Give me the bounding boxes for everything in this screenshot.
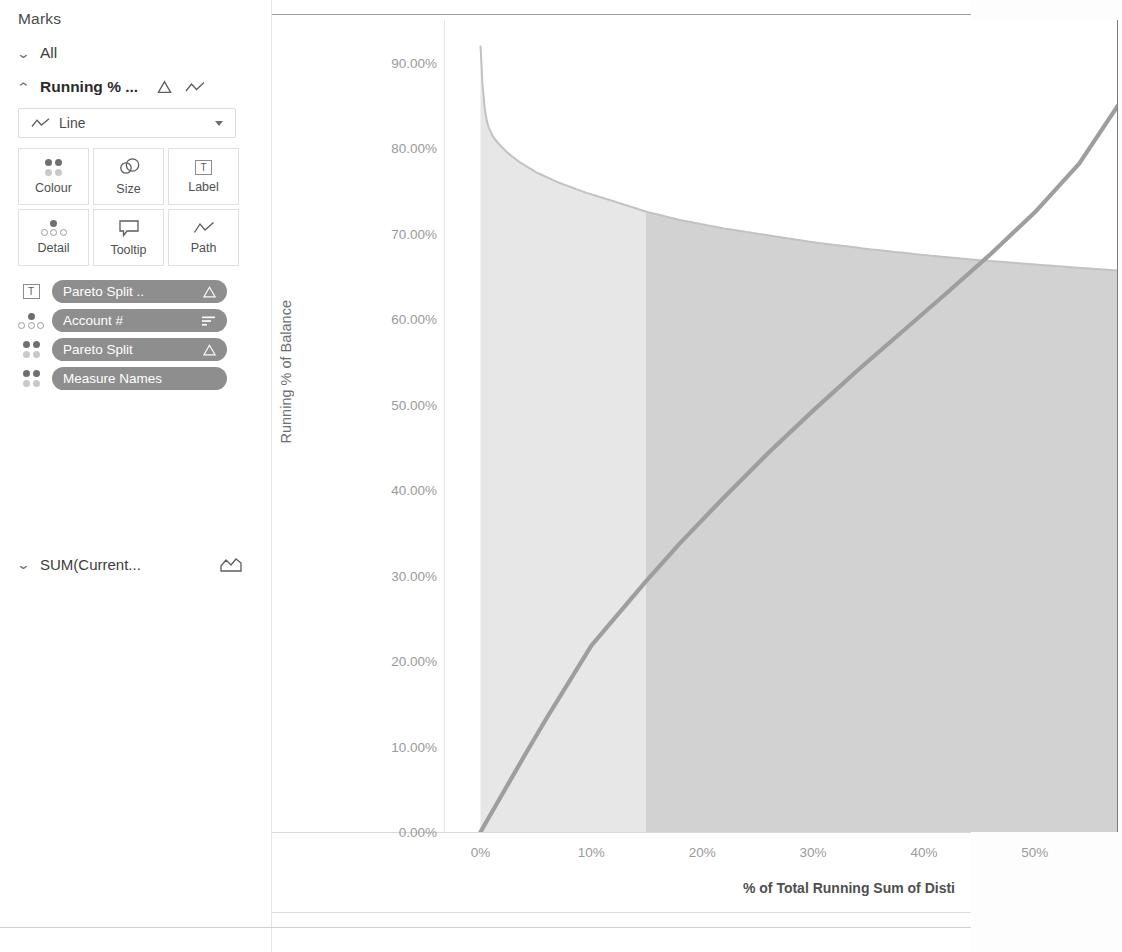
pill-account-number[interactable]: Account # — [52, 309, 227, 332]
delta-icon — [203, 344, 216, 356]
pill-measure-names[interactable]: Measure Names — [52, 367, 227, 390]
x-tick-label: 30% — [800, 845, 827, 860]
y-tick-label: 30.00% — [337, 568, 437, 583]
shelf-button-label-label: Label — [188, 180, 219, 194]
shelf-button-colour[interactable]: Colour — [18, 148, 89, 205]
detail-dots-icon — [18, 313, 44, 329]
pill-row-pareto-split-colour[interactable]: Pareto Split — [18, 338, 268, 361]
page-bottom-divider — [0, 927, 971, 928]
marks-card-sum-label: SUM(Current... — [40, 556, 141, 573]
x-tick-label: 20% — [689, 845, 716, 860]
delta-icon — [203, 286, 216, 298]
band-pareto-split-high — [646, 211, 1118, 832]
x-tick-label: 10% — [578, 845, 605, 860]
y-tick-label: 20.00% — [337, 654, 437, 669]
colour-dots-icon — [18, 370, 44, 387]
y-axis-title: Running % of Balance — [278, 300, 294, 444]
shelf-button-tooltip[interactable]: Tooltip — [93, 209, 164, 266]
plot-area[interactable] — [445, 20, 1118, 832]
tooltip-bubble-icon — [118, 219, 140, 238]
mark-type-label: Line — [59, 115, 215, 131]
marks-card-running-pct[interactable]: ⌃ Running % ... — [18, 78, 268, 96]
line-icon — [31, 117, 50, 129]
y-tick-label: 70.00% — [337, 226, 437, 241]
shelf-button-detail-label: Detail — [38, 241, 70, 255]
shelf-button-size-label: Size — [116, 182, 140, 196]
pill-row-account-number[interactable]: Account # — [18, 309, 268, 332]
band-pareto-split-low — [480, 46, 645, 832]
label-text-icon: T — [18, 284, 44, 299]
y-tick-label: 90.00% — [337, 55, 437, 70]
x-tick-label: 0% — [471, 845, 491, 860]
y-tick-label: 60.00% — [337, 312, 437, 327]
chevron-down-icon[interactable]: ⌄ — [16, 558, 34, 571]
area-chart-icon — [220, 557, 242, 573]
x-tick-label: 40% — [910, 845, 937, 860]
colour-dots-icon — [18, 341, 44, 358]
detail-dots-icon — [41, 220, 67, 236]
marks-card-panel: Marks ⌄ All ⌃ Running % ... — [0, 0, 272, 952]
mark-type-select[interactable]: Line — [18, 108, 236, 138]
y-axis-line — [444, 20, 445, 832]
pill-label: Pareto Split — [63, 342, 195, 357]
delta-icon — [157, 80, 172, 94]
shelf-button-path[interactable]: Path — [168, 209, 239, 266]
pill-pareto-split-truncated[interactable]: Pareto Split .. — [52, 280, 227, 303]
x-axis-title: % of Total Running Sum of Disti — [743, 880, 955, 896]
colour-dots-icon — [45, 159, 62, 176]
shelf-button-path-label: Path — [191, 241, 217, 255]
pill-row-pareto-split-label[interactable]: T Pareto Split .. — [18, 280, 268, 303]
y-tick-label: 10.00% — [337, 739, 437, 754]
label-text-icon: T — [195, 160, 212, 175]
shelf-button-detail[interactable]: Detail — [18, 209, 89, 266]
pill-pareto-split[interactable]: Pareto Split — [52, 338, 227, 361]
y-tick-label: 0.00% — [337, 825, 437, 840]
y-tick-label: 80.00% — [337, 141, 437, 156]
y-tick-label: 50.00% — [337, 397, 437, 412]
pill-row-measure-names[interactable]: Measure Names — [18, 367, 268, 390]
marks-card-all-label: All — [40, 44, 57, 62]
plot-svg — [445, 20, 1118, 832]
shelf-button-label[interactable]: T Label — [168, 148, 239, 205]
shelf-button-size[interactable]: Size — [93, 148, 164, 205]
chevron-up-icon[interactable]: ⌃ — [16, 81, 34, 94]
size-circles-icon — [117, 157, 141, 177]
chevron-down-icon[interactable]: ⌄ — [16, 47, 34, 60]
x-tick-label: 50% — [1021, 845, 1048, 860]
marks-card-sum-current[interactable]: ⌄ SUM(Current... — [18, 556, 246, 573]
pill-label: Account # — [63, 313, 193, 328]
y-tick-label: 40.00% — [337, 483, 437, 498]
bottom-divider — [272, 912, 971, 913]
sort-icon — [201, 315, 216, 327]
pill-label: Measure Names — [63, 371, 216, 386]
shelf-button-colour-label: Colour — [35, 181, 72, 195]
path-line-icon — [193, 220, 215, 236]
y-axis-ticks: 0.00%10.00%20.00%30.00%40.00%50.00%60.00… — [307, 0, 437, 952]
plot-right-border — [1117, 20, 1118, 832]
x-axis-ticks: 0%10%20%30%40%50% — [445, 845, 1122, 869]
pareto-chart: 0.00%10.00%20.00%30.00%40.00%50.00%60.00… — [272, 0, 971, 952]
marks-card-running-pct-label: Running % ... — [40, 78, 138, 96]
shelf-button-tooltip-label: Tooltip — [110, 243, 146, 257]
pill-label: Pareto Split .. — [63, 284, 195, 299]
marks-panel-title: Marks — [18, 0, 268, 28]
marks-card-all[interactable]: ⌄ All — [18, 44, 268, 62]
line-icon — [185, 80, 205, 94]
chevron-down-icon[interactable] — [215, 121, 223, 126]
